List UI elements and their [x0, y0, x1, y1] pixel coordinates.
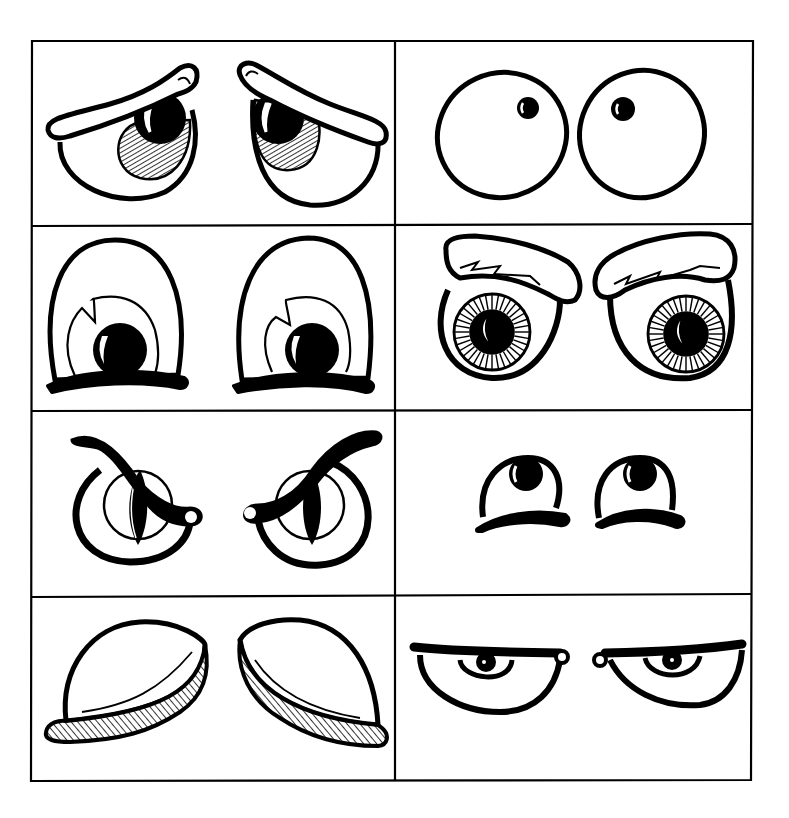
- left-eye: [478, 457, 567, 530]
- cell-closed-lashed-eyelids: [46, 620, 387, 746]
- right-eye: [244, 432, 381, 565]
- left-eye: [48, 240, 187, 392]
- left-eye: [48, 66, 197, 199]
- left-eye: [417, 51, 587, 218]
- left-eye: [441, 236, 580, 378]
- left-eye: [72, 437, 201, 562]
- eye-styles-sheet: [0, 0, 789, 818]
- cell-dome-eyes-looking-down: [48, 238, 373, 392]
- cell-angry-slit-eyes: [72, 432, 381, 565]
- cell-bushy-brow-eyes: [441, 234, 735, 379]
- right-eye: [239, 620, 387, 746]
- cell-small-eyes-looking-up: [478, 457, 682, 530]
- left-eye: [414, 647, 568, 712]
- right-eye: [595, 234, 735, 379]
- cell-sleepy-half-closed-eyes: [414, 644, 742, 712]
- left-eye: [46, 622, 207, 742]
- cell-droopy-sad-eyes: [48, 63, 386, 205]
- right-eye: [234, 238, 373, 392]
- right-eye: [559, 50, 725, 218]
- right-eye: [239, 63, 386, 205]
- right-eye: [594, 644, 742, 705]
- cell-oval-eyes-small-pupils: [417, 50, 725, 219]
- right-eye: [597, 457, 682, 526]
